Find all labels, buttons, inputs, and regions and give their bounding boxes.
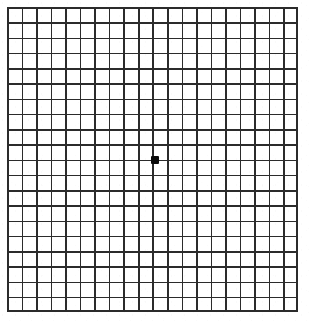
amsler-grid-chart: [0, 0, 310, 324]
central-fixation-dot: [151, 156, 159, 164]
